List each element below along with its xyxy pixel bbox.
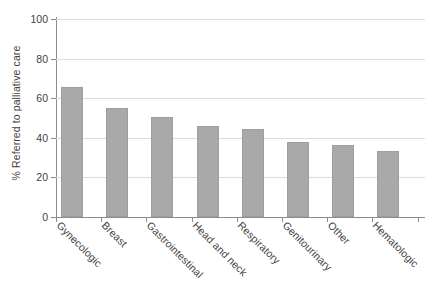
bar (332, 145, 354, 217)
y-axis-tick-label: 80 (36, 53, 48, 65)
y-axis-tick (51, 59, 56, 60)
y-axis-tick (51, 19, 56, 20)
y-axis-tick (51, 98, 56, 99)
y-axis-tick-label: 60 (36, 92, 48, 104)
bar-chart-figure: % Referred to palliative care 0204060801… (0, 0, 447, 289)
x-axis-label: Breast (100, 219, 130, 249)
x-axis-labels: GynecologicBreastGastrointestinalHead an… (56, 219, 447, 289)
bar (287, 142, 309, 217)
gridline (56, 19, 425, 20)
plot-area: 020406080100 (56, 19, 425, 217)
y-axis-tick-label: 40 (36, 132, 48, 144)
x-axis-label: Respiratory (235, 219, 282, 266)
y-axis-tick (51, 177, 56, 178)
x-axis-label: Gynecologic (55, 219, 105, 269)
y-axis-title-text: % Referred to palliative care (10, 45, 22, 180)
x-axis-line (56, 217, 425, 218)
x-axis-label: Hematologic (371, 219, 422, 270)
y-axis-tick-label: 100 (30, 13, 48, 25)
gridline (56, 98, 425, 99)
y-axis-line (56, 17, 57, 218)
bar (377, 151, 399, 217)
y-axis-tick-label: 0 (42, 211, 48, 223)
bar (242, 129, 264, 217)
bar (106, 108, 128, 217)
x-axis-label: Other (326, 219, 353, 246)
y-axis-tick (51, 138, 56, 139)
y-axis-title: % Referred to palliative care (6, 0, 26, 225)
bar (197, 126, 219, 217)
bar (61, 87, 83, 217)
y-axis-tick-label: 20 (36, 171, 48, 183)
bar (151, 117, 173, 217)
gridline (56, 59, 425, 60)
